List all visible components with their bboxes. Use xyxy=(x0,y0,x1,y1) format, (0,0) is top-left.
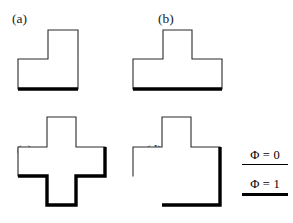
shape-c-fill xyxy=(18,117,105,205)
panel-shape-a xyxy=(0,0,130,112)
legend-label-phi-0: Φ = 0 xyxy=(242,148,288,162)
legend: Φ = 0 Φ = 1 xyxy=(242,148,290,206)
legend-rule-thick xyxy=(242,193,288,196)
legend-entry-phi-0: Φ = 0 xyxy=(242,148,288,165)
legend-rule-thin xyxy=(242,164,288,165)
shape-d-fill xyxy=(133,117,220,205)
legend-label-phi-1: Φ = 1 xyxy=(242,177,288,191)
figure-root: (a) (b) (c) (d) Φ = 0 Φ = 1 xyxy=(0,0,293,223)
panel-shape-d xyxy=(125,107,245,223)
panel-shape-c xyxy=(0,107,130,223)
panel-shape-b xyxy=(125,0,293,112)
legend-entry-phi-1: Φ = 1 xyxy=(242,177,288,196)
